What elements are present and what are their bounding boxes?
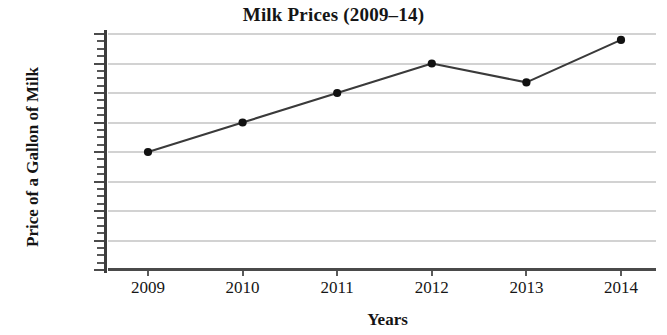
series-markers: 2009: 22010: 2.52011: 32012: 3.52013: 3.… — [144, 36, 625, 156]
x-tick-label: 2012 — [415, 278, 449, 298]
series-polyline — [148, 40, 621, 152]
data-point-marker: 2013: 3.18 — [522, 78, 530, 86]
x-tick-label: 2010 — [226, 278, 260, 298]
x-axis-title: Years — [108, 310, 667, 330]
chart-figure: Milk Prices (2009–14) Price of a Gallon … — [0, 0, 667, 335]
data-series-line: 2009: 22010: 2.52011: 32012: 3.52013: 3.… — [108, 34, 656, 270]
data-point-marker: 2011: 3 — [333, 89, 341, 97]
plot-area: 2009: 22010: 2.52011: 32012: 3.52013: 3.… — [108, 34, 656, 270]
chart-title: Milk Prices (2009–14) — [0, 4, 667, 26]
x-tick-label: 2014 — [604, 278, 638, 298]
data-point-marker: 2009: 2 — [144, 148, 152, 156]
y-axis-title: Price of a Gallon of Milk — [23, 27, 43, 287]
data-point-marker: 2012: 3.5 — [428, 59, 436, 67]
x-tick-label: 2011 — [321, 278, 354, 298]
x-tick-label: 2013 — [509, 278, 543, 298]
y-axis-line — [104, 30, 107, 273]
x-tick-label: 2009 — [131, 278, 165, 298]
data-point-marker: 2010: 2.5 — [239, 118, 247, 126]
data-point-marker: 2014: 3.9 — [617, 36, 625, 44]
